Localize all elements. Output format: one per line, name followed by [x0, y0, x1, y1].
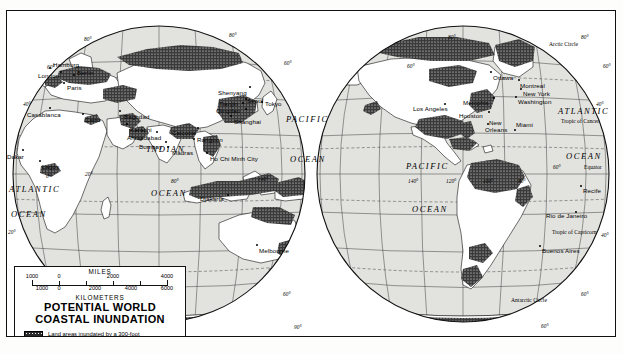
- legend-key-text: Land areas inundated by a 300-foot (unde…: [48, 331, 140, 337]
- legend-key-line1: Land areas inundated by a 300-foot: [48, 331, 140, 337]
- map-frame: HamburgLondonBerlinParisCasablancaCairoD…: [6, 10, 616, 337]
- legend-title: POTENTIAL WORLD COASTAL INUNDATION: [15, 302, 185, 325]
- inundation-pattern-swatch: [24, 331, 43, 337]
- map-legend: MILES 1000020004000 10000200040006000 KI…: [14, 266, 186, 337]
- km-tick-2000: 2000: [89, 285, 101, 291]
- legend-title-line1: POTENTIAL WORLD: [15, 302, 185, 314]
- legend-title-line2: COASTAL INUNDATION: [15, 314, 185, 326]
- world-map-screenshot: HamburgLondonBerlinParisCasablancaCairoD…: [0, 0, 623, 354]
- scale-bar-group: MILES 1000020004000 10000200040006000 KI…: [15, 267, 185, 301]
- miles-tick-1000: 1000: [26, 273, 38, 279]
- miles-tick-2000: 2000: [107, 273, 119, 279]
- miles-label: MILES: [15, 268, 185, 275]
- km-tick-6000: 6000: [161, 285, 173, 291]
- km-tick-0: 0: [57, 285, 60, 291]
- legend-key: Land areas inundated by a 300-foot (unde…: [24, 331, 140, 337]
- kilometers-label: KILOMETERS: [15, 294, 185, 301]
- western-hemisphere: [311, 11, 615, 336]
- km-tick-1000: 1000: [36, 285, 48, 291]
- miles-tick-4000: 4000: [161, 273, 173, 279]
- km-tick-4000: 4000: [125, 285, 137, 291]
- miles-tick-0: 0: [57, 273, 60, 279]
